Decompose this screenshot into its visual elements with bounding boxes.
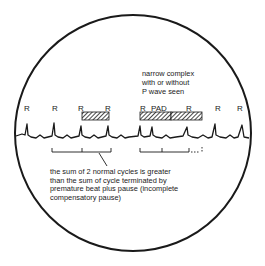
diagram-canvas xyxy=(0,0,265,266)
pad-label: PAD xyxy=(151,104,167,113)
normal-cycle-bar xyxy=(82,112,109,120)
r-label: R xyxy=(24,104,30,113)
r-label: R xyxy=(186,104,192,113)
r-label: R xyxy=(237,104,243,113)
normal-cycles-bracket xyxy=(52,148,111,166)
r-label: R xyxy=(105,104,111,113)
annotation-line: narrow complex xyxy=(142,69,194,78)
narrow-complex-annotation: narrow complex with or without P wave se… xyxy=(142,69,194,96)
caption-line: compensatory pause) xyxy=(50,194,178,203)
compensatory-pause-caption: the sum of 2 normal cycles is greater th… xyxy=(50,168,178,202)
annotation-line: P wave seen xyxy=(142,87,194,96)
pause-bar xyxy=(171,112,202,120)
r-label: R xyxy=(52,104,58,113)
annotation-line: with or without xyxy=(142,78,194,87)
r-label: R xyxy=(78,104,84,113)
ecg-trace xyxy=(16,123,249,138)
premature-cycle-bar xyxy=(140,112,171,120)
r-label: R xyxy=(140,104,146,113)
r-label: R xyxy=(215,104,221,113)
premature-cycle-bracket xyxy=(140,147,202,152)
